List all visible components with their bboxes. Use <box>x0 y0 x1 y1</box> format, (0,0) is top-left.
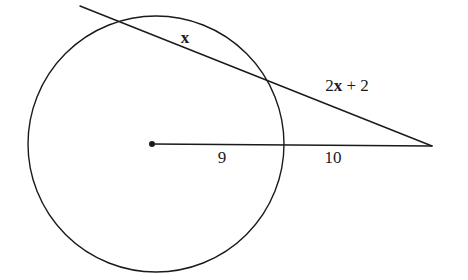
label-external-10: 10 <box>325 149 342 166</box>
secant-line <box>80 6 432 146</box>
geometry-canvas <box>0 0 468 280</box>
label-secant-inner-x: x <box>181 29 190 46</box>
expr-coefficient: 2 <box>325 76 334 95</box>
geometry-diagram: x 2x + 2 9 10 <box>0 0 468 280</box>
center-point-dot <box>149 141 155 147</box>
label-secant-outer-expression: 2x + 2 <box>325 77 369 94</box>
expr-variable: x <box>334 76 343 95</box>
label-radius-9: 9 <box>218 149 227 166</box>
expr-constant: + 2 <box>342 76 369 95</box>
radius-external-line <box>152 144 432 146</box>
